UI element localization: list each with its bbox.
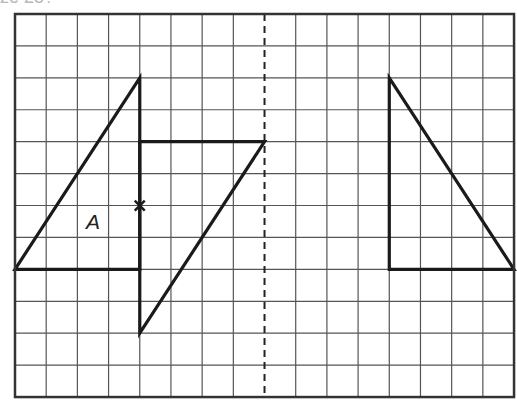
shape-label-a: A <box>84 210 100 233</box>
grid-diagram: A <box>0 0 517 408</box>
shape-labels: A <box>84 210 100 233</box>
